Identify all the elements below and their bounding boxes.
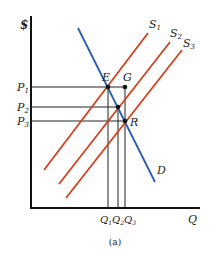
quantity-label-q1: Q1 xyxy=(100,214,112,226)
point-label-g: G xyxy=(123,71,132,84)
point-label-r: R xyxy=(129,116,138,129)
point-g xyxy=(123,85,128,90)
supply-curve-s2 xyxy=(59,42,170,184)
x-axis-label: Q xyxy=(188,213,197,226)
quantity-label-q3: Q3 xyxy=(124,214,136,226)
supply-label-s3: S3 xyxy=(183,37,196,51)
supply-label-s2: S2 xyxy=(170,27,183,41)
price-label-p1: P1 xyxy=(16,81,29,95)
supply-label-s1: S1 xyxy=(149,18,161,32)
supply-demand-diagram: $ Q P1 P2 P3 Q1 Q2 Q3 S1 S2 S3 D E G R (… xyxy=(0,0,209,261)
point-mid xyxy=(116,105,121,110)
y-axis-label: $ xyxy=(20,18,28,32)
point-r xyxy=(123,119,128,124)
quantity-label-q2: Q2 xyxy=(112,214,124,226)
demand-curve xyxy=(78,28,155,182)
point-label-e: E xyxy=(101,71,110,84)
figure-caption: (a) xyxy=(109,237,121,247)
price-label-p3: P3 xyxy=(16,115,29,129)
supply-curve-s1 xyxy=(44,33,148,170)
demand-label: D xyxy=(156,164,166,177)
point-e xyxy=(106,85,111,90)
price-label-p2: P2 xyxy=(16,101,29,115)
